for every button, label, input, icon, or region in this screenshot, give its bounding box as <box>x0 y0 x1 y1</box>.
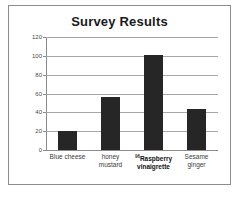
bar <box>101 97 121 150</box>
gridline-0 <box>46 150 218 151</box>
x-axis-label-line: honey <box>90 153 131 161</box>
y-tick-mark-0 <box>43 150 46 151</box>
bar <box>144 55 164 150</box>
x-axis-label: honeymustard <box>89 153 132 171</box>
y-tick-label-100: 100 <box>32 53 42 59</box>
label-marker: 96 <box>135 154 140 159</box>
gridline-100 <box>46 56 218 57</box>
x-axis-label: Blue cheese <box>46 153 89 171</box>
x-axis-label: 96Raspberryvinaigrette <box>132 153 175 171</box>
y-tick-mark-80 <box>43 75 46 76</box>
y-tick-label-0: 0 <box>39 147 42 153</box>
y-tick-label-120: 120 <box>32 34 42 40</box>
chart-frame: Survey Results 020406080100120 Blue chee… <box>8 5 231 185</box>
y-tick-mark-100 <box>43 56 46 57</box>
x-axis-label-line: Blue cheese <box>47 153 88 161</box>
chart-title: Survey Results <box>9 14 230 29</box>
x-axis-label-line: vinaigrette <box>133 163 174 171</box>
y-tick-label-40: 40 <box>35 109 42 115</box>
gridline-60 <box>46 94 218 95</box>
gridline-120 <box>46 37 218 38</box>
x-axis-label-line: mustard <box>90 161 131 169</box>
x-axis-label-line: Sesame <box>176 153 217 161</box>
x-axis-label-line: 96Raspberry <box>133 153 174 163</box>
y-tick-mark-120 <box>43 37 46 38</box>
bar <box>58 131 78 150</box>
x-axis-label: Sesameginger <box>175 153 218 171</box>
x-axis-labels: Blue cheesehoneymustard96Raspberryvinaig… <box>46 153 218 171</box>
y-tick-mark-40 <box>43 112 46 113</box>
y-tick-label-80: 80 <box>35 72 42 78</box>
gridline-80 <box>46 75 218 76</box>
y-tick-label-20: 20 <box>35 128 42 134</box>
y-tick-mark-60 <box>43 94 46 95</box>
x-axis-label-line: ginger <box>176 161 217 169</box>
bar <box>187 109 207 150</box>
plot-area: 020406080100120 <box>46 37 218 150</box>
y-tick-mark-20 <box>43 131 46 132</box>
y-tick-label-60: 60 <box>35 91 42 97</box>
